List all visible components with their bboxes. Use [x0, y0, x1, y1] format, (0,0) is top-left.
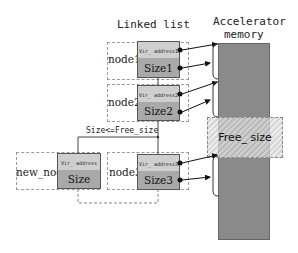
connector-lines	[0, 0, 298, 253]
